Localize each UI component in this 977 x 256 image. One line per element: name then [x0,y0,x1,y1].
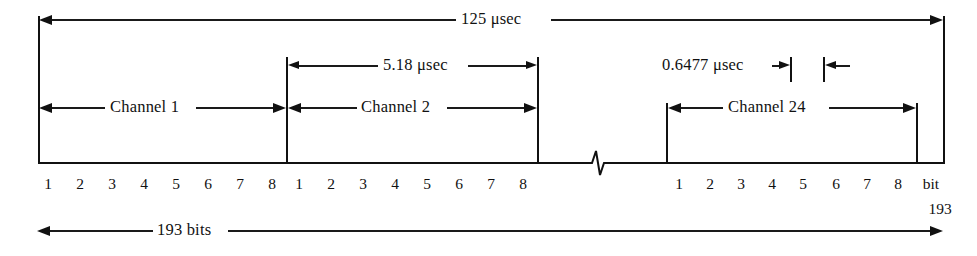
bit-label: 3 [355,176,371,192]
frame-duration-arrow-left [39,15,52,25]
bit-label: 1 [40,176,56,192]
channel-24-arrow-right [903,103,916,113]
bit-duration-arrow-left [825,61,836,69]
bit-label: 4 [387,176,403,192]
bit-label: 1 [671,176,687,192]
frame-bits-line-right [228,230,931,232]
bit-label: 5 [168,176,184,192]
bit-label: 2 [323,176,339,192]
channel-2-label: Channel 2 [361,99,430,116]
channel-2-line-left [301,107,357,109]
channel-24-arrow-left [668,103,681,113]
bit-label: 3 [733,176,749,192]
channel-1-line-left [52,107,105,109]
bit-label: 2 [72,176,88,192]
bit-label: 8 [515,176,531,192]
two-channel-duration-arrow-right [526,61,537,69]
frame-duration-label: 125 μsec [461,11,521,28]
channel2-right-boundary-line [537,57,539,164]
two-channel-duration-line-left [299,65,378,67]
bit-label: 4 [136,176,152,192]
bit-label: 7 [232,176,248,192]
bit-label: 6 [828,176,844,192]
bit-label: 1 [291,176,307,192]
channel-1-arrow-right [273,103,286,113]
channel-24-label: Channel 24 [728,99,806,116]
channel-2-line-right [447,107,525,109]
bit-duration-line-right [836,65,850,67]
bit-label: 5 [419,176,435,192]
bit-label: 7 [859,176,875,192]
frame-bits-line-left [50,230,153,232]
baseline-left-segment [38,162,583,164]
bit-label: 8 [890,176,906,192]
bit-label: 6 [200,176,216,192]
frame-left-boundary-line [38,16,40,164]
two-channel-duration-label: 5.18 μsec [383,57,448,74]
baseline-right-segment [609,162,945,164]
bit-label: 8 [264,176,280,192]
bit-duration-arrow-right [779,61,790,69]
channel-1-arrow-left [39,103,52,113]
channel-24-line-left [681,107,723,109]
bit-duration-label: 0.6477 μsec [662,57,744,74]
channel24-right-boundary-line [916,103,918,164]
bit-label: 3 [104,176,120,192]
bit-label: 4 [764,176,780,192]
t1-frame-timing-diagram: 125 μsec 5.18 μsec 0.6477 μsec Channel 1… [0,0,977,256]
bit-label: 7 [483,176,499,192]
frame-duration-arrow-right [930,15,943,25]
two-channel-duration-line-right [468,65,526,67]
frame-bits-label: 193 bits [157,222,211,239]
bit-label: 2 [702,176,718,192]
channel-1-label: Channel 1 [110,99,179,116]
framing-bit-label-line2: 193 [920,201,960,217]
channel-1-line-right [196,107,274,109]
frame-bits-arrow-right [930,226,943,236]
bit-width-left-tick [790,57,792,82]
channel-2-arrow-left [288,103,301,113]
channel-2-arrow-right [524,103,537,113]
channel-24-line-right [829,107,904,109]
bit-label: 5 [795,176,811,192]
frame-duration-line-left [52,19,456,21]
frame-bits-arrow-left [37,226,50,236]
frame-right-boundary-line [943,16,945,164]
bit-label: 6 [451,176,467,192]
framing-bit-label-line1: bit [911,176,951,192]
frame-duration-line-right [551,19,930,21]
two-channel-duration-arrow-left [288,61,299,69]
